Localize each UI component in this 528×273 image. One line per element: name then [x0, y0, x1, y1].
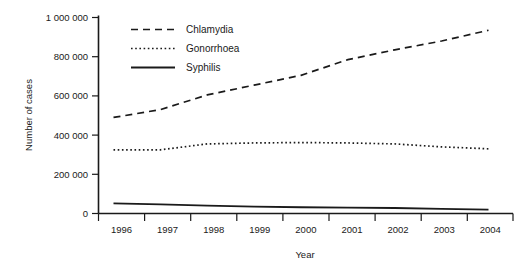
x-axis-tick-labels: 1996 1997 1998 1999 2000 2001 2002 2003 … — [111, 224, 501, 235]
x-tick-label: 2000 — [295, 224, 316, 235]
x-tick-label: 1999 — [249, 224, 270, 235]
series-line-gonorrhoea — [114, 143, 489, 150]
y-tick-label: 200 000 — [54, 169, 88, 180]
chart-legend: Chlamydia Gonorrhoea Syphilis — [131, 24, 240, 73]
x-tick-label: 2001 — [341, 224, 362, 235]
x-tick-label: 2004 — [480, 224, 501, 235]
x-axis-title: Year — [295, 249, 314, 260]
x-tick-label: 1997 — [157, 224, 178, 235]
series-line-chlamydia — [114, 30, 489, 117]
x-tick-label: 2002 — [388, 224, 409, 235]
legend-label-gonorrhoea: Gonorrhoea — [186, 43, 240, 54]
x-tick-label: 1996 — [111, 224, 132, 235]
legend-label-syphilis: Syphilis — [186, 62, 220, 73]
y-axis-ticks — [92, 18, 99, 214]
legend-label-chlamydia: Chlamydia — [186, 24, 234, 35]
series-line-syphilis — [114, 203, 489, 209]
y-tick-label: 1 000 000 — [46, 12, 88, 23]
y-axis-title: Number of cases — [23, 79, 34, 151]
line-chart: 1 000 000 800 000 600 000 400 000 200 00… — [0, 0, 528, 273]
x-axis-ticks — [99, 214, 514, 222]
x-tick-label: 1998 — [203, 224, 224, 235]
y-axis-tick-labels: 1 000 000 800 000 600 000 400 000 200 00… — [46, 12, 88, 219]
y-tick-label: 600 000 — [54, 90, 88, 101]
y-tick-label: 800 000 — [54, 51, 88, 62]
y-tick-label: 400 000 — [54, 130, 88, 141]
x-tick-label: 2003 — [434, 224, 455, 235]
chart-figure: 1 000 000 800 000 600 000 400 000 200 00… — [0, 0, 528, 273]
y-tick-label: 0 — [83, 208, 88, 219]
